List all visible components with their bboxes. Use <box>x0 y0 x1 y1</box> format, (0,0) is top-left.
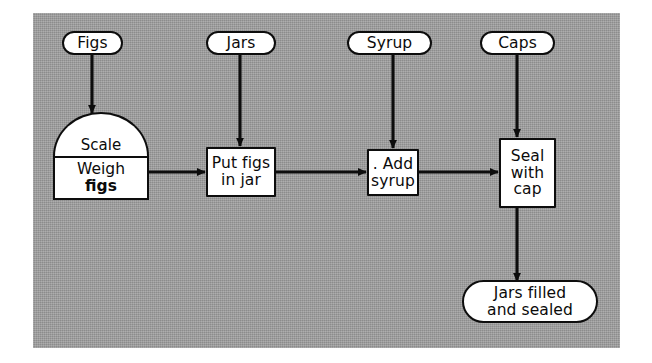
resource-label-scale-text: Scale <box>81 136 121 154</box>
output-node-jars-filled-and-sealed-label: Jars filled and sealed <box>487 285 573 318</box>
input-node-figs-label: Figs <box>77 35 107 52</box>
input-node-syrup-label: Syrup <box>367 35 413 52</box>
output-node-jars-filled-and-sealed[interactable]: Jars filled and sealed <box>462 280 598 323</box>
process-node-add-syrup[interactable]: . Add syrup <box>367 149 419 196</box>
process-node-put-figs-in-jar[interactable]: Put figs in jar <box>206 147 276 197</box>
process-node-seal-with-cap[interactable]: Seal with cap <box>499 138 556 208</box>
process-node-weigh-figs-body: Weigh figs <box>53 156 149 200</box>
resource-label-scale: Scale <box>53 112 149 156</box>
input-node-caps[interactable]: Caps <box>480 31 555 55</box>
process-node-seal-with-cap-label: Seal with cap <box>511 148 545 198</box>
process-node-put-figs-in-jar-label: Put figs in jar <box>212 155 270 188</box>
process-node-weigh-figs[interactable]: Scale Weigh figs <box>53 112 149 200</box>
input-node-jars-label: Jars <box>227 35 256 52</box>
process-node-weigh-figs-line2: figs <box>85 178 117 195</box>
input-node-jars[interactable]: Jars <box>206 31 276 55</box>
input-node-figs[interactable]: Figs <box>62 31 123 55</box>
flowchart-canvas: Figs Jars Syrup Caps Scale Weigh figs Pu… <box>0 0 652 363</box>
input-node-syrup[interactable]: Syrup <box>347 31 432 55</box>
process-node-add-syrup-label: . Add syrup <box>371 156 415 189</box>
input-node-caps-label: Caps <box>498 35 537 52</box>
process-node-weigh-figs-line1: Weigh <box>77 161 125 178</box>
